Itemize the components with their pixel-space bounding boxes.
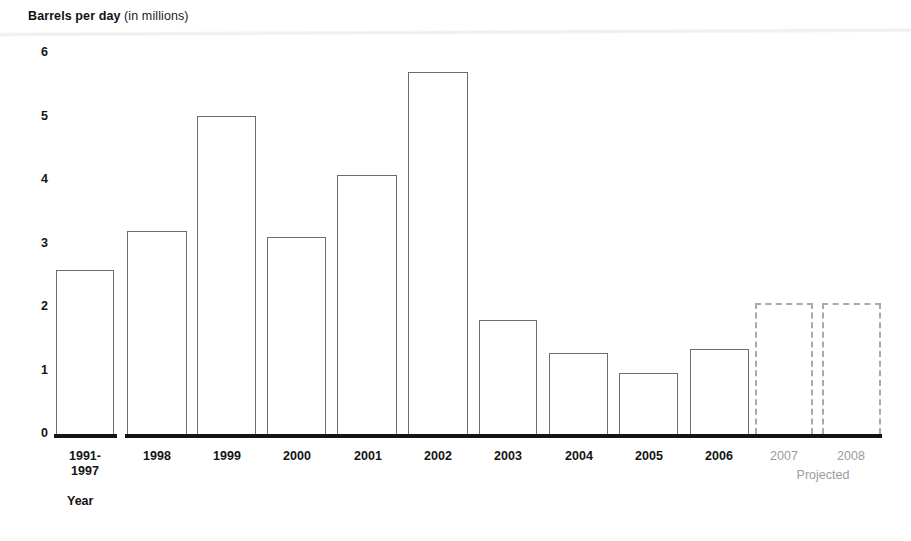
y-tick-5: 5: [18, 110, 48, 122]
bar-2003[interactable]: [479, 320, 537, 434]
bar-2006[interactable]: [690, 349, 749, 434]
chart-figure: Barrels per day (in millions) 6 5 4 3 2 …: [0, 0, 911, 541]
y-tick-2: 2: [18, 300, 48, 312]
x-tick-2000: 2000: [262, 449, 332, 464]
bar-2000[interactable]: [267, 237, 326, 434]
x-tick-2004: 2004: [544, 449, 614, 464]
bar-2004[interactable]: [549, 353, 608, 434]
x-tick-2007: 2007: [749, 449, 819, 464]
x-tick-2008: 2008: [816, 449, 886, 464]
bar-2007-projected[interactable]: [755, 303, 813, 434]
x-tick-1999: 1999: [192, 449, 262, 464]
x-axis-label: Year: [67, 494, 93, 508]
plot-area: 6 5 4 3 2 1 0 1991- 1997 1998 1999 2000 …: [0, 0, 911, 541]
x-tick-2003: 2003: [473, 449, 543, 464]
y-tick-0: 0: [18, 427, 48, 439]
bar-1999[interactable]: [197, 116, 256, 434]
x-tick-2002: 2002: [403, 449, 473, 464]
x-axis-baseline-left: [54, 434, 117, 438]
y-tick-3: 3: [18, 237, 48, 249]
x-axis-baseline-main: [125, 434, 882, 438]
y-tick-6: 6: [18, 46, 48, 58]
projected-annotation: Projected: [753, 468, 893, 482]
x-tick-1991-1997-line2: 1997: [50, 464, 120, 479]
bar-2005[interactable]: [619, 373, 678, 434]
bar-2001[interactable]: [337, 175, 397, 434]
bar-2002[interactable]: [408, 72, 468, 434]
x-tick-1998: 1998: [122, 449, 192, 464]
x-tick-1991-1997-line1: 1991-: [50, 449, 120, 464]
x-tick-2006: 2006: [684, 449, 754, 464]
y-tick-4: 4: [18, 173, 48, 185]
bar-1998[interactable]: [127, 231, 187, 434]
x-tick-2001: 2001: [333, 449, 403, 464]
bar-2008-projected[interactable]: [822, 303, 881, 434]
y-tick-1: 1: [18, 364, 48, 376]
x-tick-2005: 2005: [614, 449, 684, 464]
bar-1991-1997[interactable]: [56, 270, 114, 434]
